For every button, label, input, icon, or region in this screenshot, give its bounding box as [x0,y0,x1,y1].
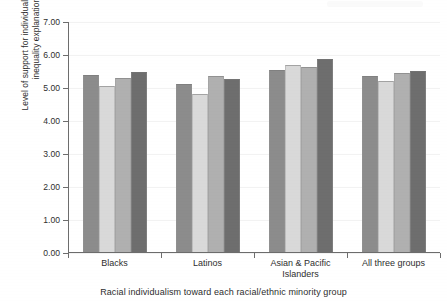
bar-group [269,21,333,252]
bar[interactable] [301,67,317,252]
y-axis-tick [63,55,68,56]
bar[interactable] [285,65,301,252]
bar[interactable] [317,59,333,252]
scan-artifact [327,1,423,7]
bar[interactable] [192,94,208,252]
bar-group [83,21,147,252]
bar[interactable] [99,86,115,252]
bar[interactable] [378,81,394,252]
y-axis-tick [63,121,68,122]
y-axis-tick [63,187,68,188]
plot-area: 0.001.002.003.004.005.006.007.00 [68,22,440,253]
y-axis-tick [63,88,68,89]
bar[interactable] [394,73,410,252]
y-axis-tick-label: 3.00 [43,149,60,159]
y-axis-tick-label: 0.00 [43,248,60,258]
x-axis-title: Racial individualism toward each racial/… [0,287,447,297]
bar[interactable] [83,75,99,252]
y-axis-title: Level of support for individualistic rac… [20,0,41,153]
y-axis-tick-label: 7.00 [43,17,60,27]
y-axis-tick [63,22,68,23]
bar[interactable] [269,70,285,252]
bar-group [362,21,426,252]
bar[interactable] [208,76,224,252]
y-axis-tick [63,220,68,221]
y-axis-tick-label: 5.00 [43,83,60,93]
x-axis-tick [440,253,441,258]
bar[interactable] [115,78,131,252]
y-axis-tick-label: 1.00 [43,215,60,225]
bar-group [176,21,240,252]
x-axis-category-label: Latinos [161,258,254,269]
bar[interactable] [362,76,378,252]
y-axis-tick [63,154,68,155]
bar[interactable] [176,84,192,252]
bar[interactable] [224,79,240,252]
x-axis-category-label: Asian & Pacific Islanders [254,258,347,280]
y-axis-tick-label: 2.00 [43,182,60,192]
x-axis-category-label: Blacks [68,258,161,269]
bar[interactable] [410,71,426,253]
bar[interactable] [131,72,147,252]
y-axis-tick-label: 6.00 [43,50,60,60]
x-axis-category-label: All three groups [347,258,440,269]
figure: Level of support for individualistic rac… [0,0,447,301]
y-axis-tick-label: 4.00 [43,116,60,126]
